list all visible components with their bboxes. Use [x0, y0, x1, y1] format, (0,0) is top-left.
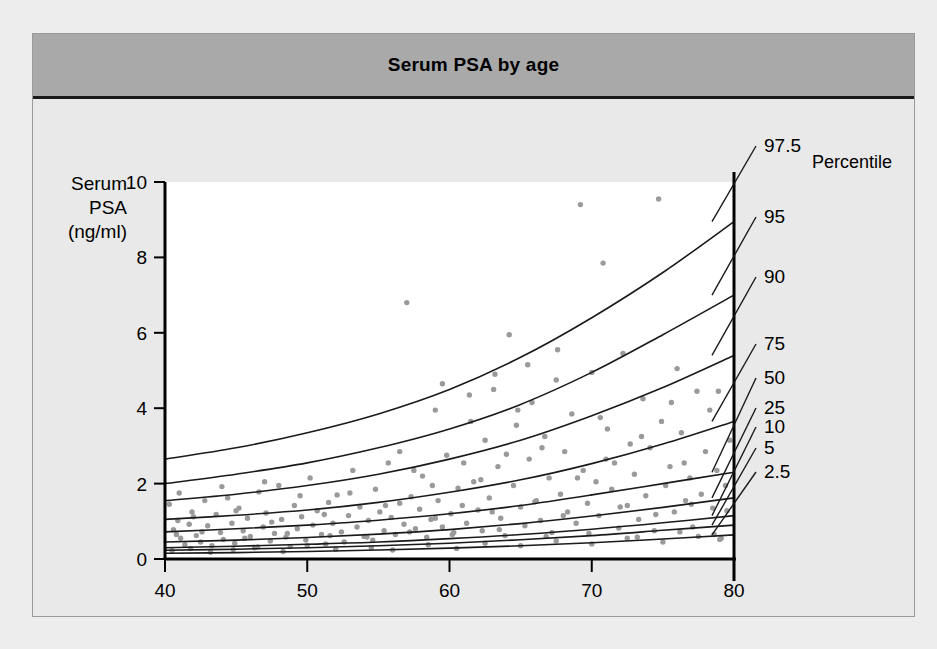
chart-title-bar: Serum PSA by age [33, 34, 914, 99]
data-point [554, 538, 559, 543]
percentile-label-25: 25 [764, 397, 785, 418]
plot-area-wrapper: 02468104050607080SerumPSA(ng/ml)Age (yea… [33, 102, 916, 618]
data-point [507, 332, 512, 337]
data-point [605, 426, 610, 431]
data-point [565, 509, 570, 514]
x-axis-ticks: 4050607080 [154, 559, 744, 601]
data-point [269, 519, 274, 524]
data-point [478, 477, 483, 482]
data-point [542, 434, 547, 439]
data-point [245, 516, 250, 521]
data-point [600, 260, 605, 265]
data-point [632, 472, 637, 477]
data-point [417, 507, 422, 512]
y-tick-label: 6 [136, 323, 147, 344]
data-point [386, 460, 391, 465]
data-point [440, 524, 445, 529]
data-point [717, 537, 722, 542]
data-point [491, 387, 496, 392]
figure-panel: Serum PSA by age 02468104050607080SerumP… [32, 33, 915, 617]
y-tick-label: 4 [136, 398, 147, 419]
data-point [262, 479, 267, 484]
data-point [575, 475, 580, 480]
percentile-label-97-5: 97.5 [764, 135, 801, 156]
data-point [593, 479, 598, 484]
data-point [401, 522, 406, 527]
x-tick-label: 60 [439, 580, 460, 601]
data-point [346, 513, 351, 518]
data-point [504, 452, 509, 457]
y-tick-label: 2 [136, 474, 147, 495]
data-point [177, 490, 182, 495]
x-tick-label: 80 [723, 580, 744, 601]
data-point [487, 495, 492, 500]
data-point [498, 516, 503, 521]
data-point [377, 509, 382, 514]
data-point [511, 483, 516, 488]
data-point [699, 492, 704, 497]
psa-percentile-chart: 02468104050607080SerumPSA(ng/ml)Age (yea… [33, 102, 916, 618]
y-axis-title-line: (ng/ml) [68, 221, 127, 242]
data-point [558, 492, 563, 497]
data-point [307, 475, 312, 480]
data-point [679, 430, 684, 435]
data-point [326, 500, 331, 505]
data-point [672, 509, 677, 514]
page-title: Serum PSA by age [388, 54, 559, 76]
data-point [598, 415, 603, 420]
data-point [683, 498, 688, 503]
y-axis-ticks: 0246810 [126, 172, 165, 570]
y-axis-title: SerumPSA(ng/ml) [68, 173, 127, 242]
data-point [667, 464, 672, 469]
data-point [292, 503, 297, 508]
data-point [581, 468, 586, 473]
data-point [198, 539, 203, 544]
data-point [471, 479, 476, 484]
data-point [205, 523, 210, 528]
data-point [219, 484, 224, 489]
data-point [411, 468, 416, 473]
data-point [413, 526, 418, 531]
data-point [354, 524, 359, 529]
data-point [555, 347, 560, 352]
data-point [339, 529, 344, 534]
data-point [569, 411, 574, 416]
data-point [716, 389, 721, 394]
data-point [450, 532, 455, 537]
data-point [554, 377, 559, 382]
data-point [272, 531, 277, 536]
data-point [194, 533, 199, 538]
data-point [682, 460, 687, 465]
data-point [218, 530, 223, 535]
data-point [694, 389, 699, 394]
data-point [546, 475, 551, 480]
data-point [562, 449, 567, 454]
data-point [639, 434, 644, 439]
percentile-label-50: 50 [764, 367, 785, 388]
data-point [653, 512, 658, 517]
data-point [209, 543, 214, 548]
y-axis-title-line: PSA [89, 197, 127, 218]
data-point [669, 400, 674, 405]
x-tick-label: 50 [297, 580, 318, 601]
data-point [467, 392, 472, 397]
data-point [285, 531, 290, 536]
data-point [233, 508, 238, 513]
data-point [578, 202, 583, 207]
data-point [525, 362, 530, 367]
data-point [460, 503, 465, 508]
x-tick-label: 70 [581, 580, 602, 601]
data-point [178, 536, 183, 541]
data-point [707, 407, 712, 412]
data-point [229, 521, 234, 526]
percentile-label-90: 90 [764, 266, 785, 287]
data-point [573, 521, 578, 526]
data-point [174, 532, 179, 537]
data-point [435, 498, 440, 503]
data-point [515, 407, 520, 412]
data-point [628, 441, 633, 446]
data-point [656, 196, 661, 201]
data-point [433, 516, 438, 521]
data-point [187, 522, 192, 527]
data-point [202, 498, 207, 503]
